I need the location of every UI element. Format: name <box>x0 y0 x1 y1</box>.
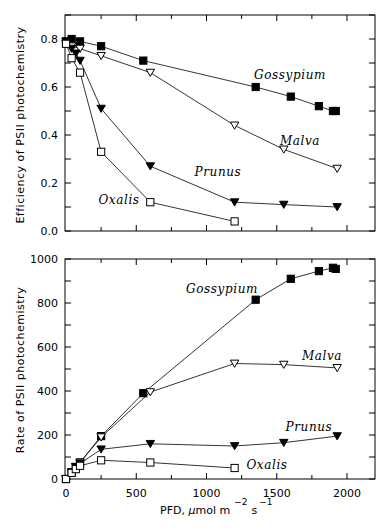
gossypium-marker <box>315 103 322 110</box>
y-tick-label: 200 <box>37 429 58 442</box>
bottom-panel: 020040060080010000500100015002000 Rate o… <box>14 253 375 517</box>
y-tick-label: 0.8 <box>41 33 59 46</box>
gossypium-marker <box>315 268 322 275</box>
oxalis-marker <box>76 462 83 469</box>
gossypium-marker <box>252 83 259 90</box>
bottom-y-axis-label: Rate of PSII photochemistry <box>14 287 27 453</box>
oxalis-marker <box>68 55 75 62</box>
bottom-series-group <box>62 264 342 483</box>
gossypium-marker <box>76 38 83 45</box>
y-tick-label: 0 <box>51 473 58 486</box>
prunus-marker <box>97 105 105 112</box>
label-malva-top: Malva <box>279 134 320 148</box>
x-tick-label: 1000 <box>193 487 221 500</box>
oxalis-marker <box>98 148 105 155</box>
oxalis-marker <box>147 459 154 466</box>
y-tick-label: 600 <box>37 341 58 354</box>
series-prunus <box>62 38 342 211</box>
gossypium-marker <box>140 57 147 64</box>
malva-marker <box>230 122 238 129</box>
y-tick-label: 0.2 <box>41 177 59 190</box>
oxalis-marker <box>98 457 105 464</box>
series-gossypium <box>62 264 339 482</box>
gossypium-marker <box>252 296 259 303</box>
malva-marker <box>146 69 154 76</box>
top-axis-ticks: 0.00.20.40.60.8 <box>41 15 376 238</box>
oxalis-marker <box>147 199 154 206</box>
x-tick-label: 500 <box>126 487 147 500</box>
label-oxalis-bottom: Oxalis <box>246 458 287 472</box>
y-tick-label: 800 <box>37 297 58 310</box>
oxalis-marker <box>76 69 83 76</box>
gossypium-marker <box>332 265 339 272</box>
figure: 0.00.20.40.60.8 Efficiency of PSII photo… <box>0 0 388 531</box>
series-line <box>66 268 336 479</box>
y-tick-label: 0.4 <box>41 129 59 142</box>
oxalis-marker <box>231 464 238 471</box>
y-tick-label: 400 <box>37 385 58 398</box>
malva-marker <box>97 52 105 59</box>
x-axis-label: PFD, µmol m−2s−1 <box>160 497 272 517</box>
series-oxalis <box>62 40 238 225</box>
gossypium-marker <box>332 107 339 114</box>
gossypium-marker <box>287 93 294 100</box>
label-gossypium-bottom: Gossypium <box>186 282 258 296</box>
x-tick-label: 2000 <box>333 487 361 500</box>
series-line <box>66 41 337 207</box>
y-tick-label: 0.6 <box>41 81 59 94</box>
y-tick-label: 1000 <box>30 253 58 266</box>
top-y-axis-label: Efficiency of PSII photochemistry <box>14 26 27 223</box>
oxalis-marker <box>62 40 69 47</box>
malva-marker <box>333 165 341 172</box>
label-gossypium-top: Gossypium <box>254 68 326 82</box>
prunus-marker <box>146 163 154 170</box>
series-line <box>66 44 337 169</box>
gossypium-marker <box>98 43 105 50</box>
gossypium-marker <box>287 275 294 282</box>
x-tick-label: 0 <box>63 487 70 500</box>
label-malva-bottom: Malva <box>301 349 342 363</box>
label-prunus-bottom: Prunus <box>285 420 333 434</box>
series-line <box>66 436 337 479</box>
prunus-marker <box>97 446 105 453</box>
top-panel: 0.00.20.40.60.8 Efficiency of PSII photo… <box>14 15 375 238</box>
y-tick-label: 0.0 <box>41 225 59 238</box>
label-prunus-top: Prunus <box>194 165 242 179</box>
prunus-marker <box>76 57 84 64</box>
label-oxalis-top: Oxalis <box>98 193 139 207</box>
oxalis-marker <box>231 218 238 225</box>
